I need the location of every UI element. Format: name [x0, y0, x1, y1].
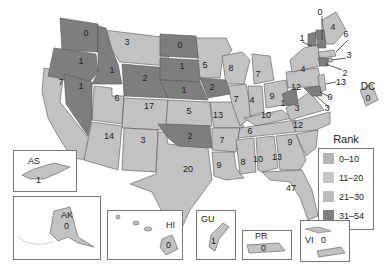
label-ks: 5 — [186, 106, 191, 116]
label-ia: 2 — [209, 82, 214, 92]
gu-name: GU — [201, 214, 215, 224]
legend-label: 21–30 — [339, 192, 364, 202]
legend-label: 0–10 — [339, 154, 359, 164]
dc-value: 0 — [365, 93, 370, 103]
label-il: 7 — [233, 94, 238, 104]
label-va: 3 — [294, 103, 299, 113]
ak-name: AK — [61, 210, 73, 220]
dc-name: DC — [361, 81, 375, 92]
legend-label: 31–54 — [339, 211, 364, 221]
label-in: 4 — [249, 95, 254, 105]
hi-name: HI — [166, 220, 175, 230]
label-wy: 2 — [142, 73, 147, 83]
state-ct — [318, 58, 328, 66]
legend-item-0-10: 0–10 — [319, 149, 373, 168]
inset-puerto-rico: PR 0 — [242, 230, 292, 260]
state-nh — [316, 30, 326, 48]
pr-name: PR — [255, 231, 268, 241]
label-ar: 7 — [219, 135, 224, 145]
label-pa: 12 — [291, 82, 301, 92]
label-ok: 2 — [187, 131, 192, 141]
state-ma — [318, 50, 336, 58]
label-de: 0 — [327, 92, 332, 102]
label-ky: 10 — [261, 110, 271, 120]
label-wv: 1 — [280, 98, 285, 108]
label-wa: 0 — [83, 28, 88, 38]
inset-virgin-islands: VI 0 — [300, 220, 350, 262]
label-me: 4 — [330, 22, 335, 32]
label-nc: 12 — [293, 120, 303, 130]
label-co: 17 — [144, 101, 154, 111]
label-ms: 8 — [240, 157, 245, 167]
label-az: 14 — [104, 131, 114, 141]
label-ca: 7 — [58, 77, 63, 87]
state-ri — [328, 58, 332, 62]
label-or: 1 — [78, 56, 83, 66]
label-nd: 0 — [177, 40, 182, 50]
label-id: 1 — [109, 65, 114, 75]
label-ne: 1 — [181, 85, 186, 95]
legend-swatch — [323, 191, 334, 202]
label-fl: 47 — [286, 183, 296, 193]
pr-value: 0 — [261, 243, 266, 253]
inset-hawaii: HI 0 — [107, 210, 183, 260]
legend-label: 11–20 — [339, 173, 363, 183]
state-vt — [308, 32, 316, 46]
label-vt: 1 — [299, 33, 304, 43]
state-ut — [92, 86, 124, 124]
label-nh: 0 — [317, 7, 322, 17]
legend-swatch — [323, 153, 334, 164]
label-sd: 1 — [179, 61, 184, 71]
state-wi — [222, 52, 250, 84]
legend-item-21-30: 21–30 — [319, 187, 373, 206]
label-nj: 13 — [336, 77, 346, 87]
label-mn: 5 — [202, 60, 207, 70]
label-tn: 6 — [247, 126, 252, 136]
vi-value: 0 — [321, 235, 326, 245]
legend-title: Rank — [318, 133, 374, 145]
label-sc: 9 — [287, 137, 292, 147]
label-ri: 3 — [346, 50, 351, 60]
state-wa — [60, 18, 98, 52]
label-mt: 3 — [124, 37, 129, 47]
label-mi: 7 — [255, 69, 260, 79]
label-ma: 6 — [343, 29, 348, 39]
gu-value: 1 — [211, 236, 216, 246]
label-wi: 8 — [228, 63, 233, 73]
inset-american-samoa: AS 1 — [13, 150, 77, 192]
ak-value: 0 — [64, 221, 69, 231]
inset-alaska: AK 0 — [13, 196, 101, 260]
ak-shape — [14, 197, 100, 259]
hi-shape — [108, 211, 182, 259]
hi-value: 0 — [166, 240, 171, 250]
legend-swatch — [323, 172, 334, 183]
label-nm: 3 — [140, 135, 145, 145]
label-md: 3 — [324, 103, 329, 113]
state-fl — [262, 170, 318, 220]
legend: 0–10 11–20 21–30 31–54 — [318, 148, 374, 230]
label-tx: 20 — [183, 164, 193, 174]
label-mo: 13 — [213, 110, 223, 120]
as-name: AS — [28, 156, 40, 166]
label-nv: 1 — [78, 81, 83, 91]
label-ny: 4 — [300, 64, 305, 74]
legend-item-11-20: 11–20 — [319, 168, 373, 187]
label-la: 9 — [216, 160, 221, 170]
as-shape — [14, 151, 76, 191]
as-value: 1 — [36, 175, 41, 185]
label-oh: 9 — [269, 91, 274, 101]
label-ga: 13 — [272, 152, 282, 162]
vi-name: VI — [305, 235, 314, 245]
inset-guam: GU 1 — [196, 210, 236, 260]
label-al: 10 — [253, 154, 263, 164]
label-ut: 6 — [114, 93, 119, 103]
